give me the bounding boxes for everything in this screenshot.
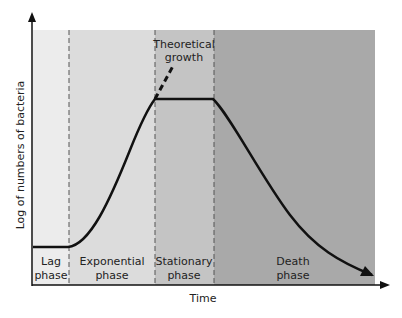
death-phase-region: [214, 30, 375, 285]
exponential-label-2: phase: [95, 269, 128, 282]
growth-curve-diagram: Theoretical growth Lag phase Exponential…: [0, 0, 402, 318]
stationary-label-2: phase: [167, 269, 200, 282]
death-label-2: phase: [276, 269, 309, 282]
theoretical-label-2: growth: [165, 51, 203, 64]
y-axis-label: Log of numbers of bacteria: [14, 81, 27, 230]
lag-label-2: phase: [34, 269, 67, 282]
lag-label-1: Lag: [41, 255, 61, 268]
x-axis-label: Time: [189, 292, 217, 305]
exponential-phase-region: [69, 30, 155, 285]
theoretical-label-1: Theoretical: [152, 38, 214, 51]
stationary-label-1: Stationary: [156, 255, 213, 268]
stationary-phase-region: [155, 30, 214, 285]
exponential-label-1: Exponential: [79, 255, 144, 268]
x-axis-arrow-icon: [380, 281, 390, 289]
death-label-1: Death: [276, 255, 309, 268]
y-axis-arrow-icon: [28, 12, 36, 22]
